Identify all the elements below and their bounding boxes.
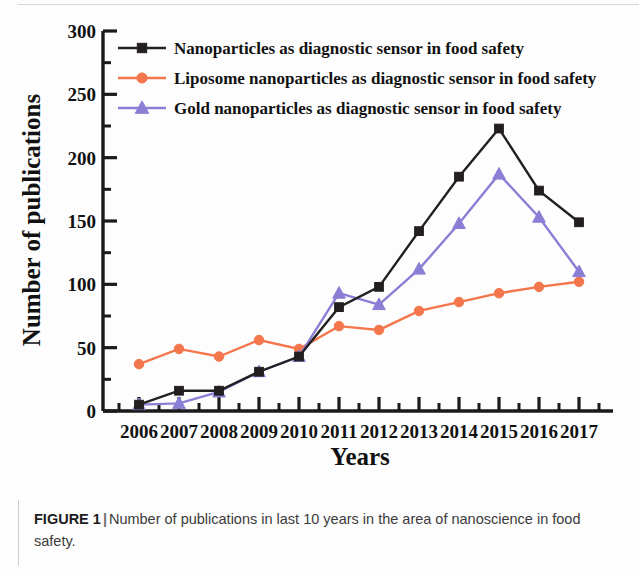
- caption-body: Number of publications in last 10 years …: [34, 511, 580, 549]
- legend-label: Nanoparticles as diagnostic sensor in fo…: [174, 39, 525, 58]
- legend-item-2: Liposome nanoparticles as diagnostic sen…: [118, 69, 597, 88]
- series-line: [139, 129, 579, 405]
- legend-label: Gold nanoparticles as diagnostic sensor …: [174, 99, 562, 118]
- x-tick-label: 2017: [560, 421, 599, 442]
- data-point-marker: [495, 124, 504, 133]
- series-line: [139, 282, 579, 364]
- y-tick-label: 200: [68, 148, 97, 169]
- y-axis-title: Number of publications: [18, 94, 45, 347]
- figure-caption: FIGURE 1|Number of publications in last …: [0, 498, 639, 570]
- caption-label: FIGURE 1: [34, 511, 101, 527]
- x-tick-label: 2008: [200, 421, 238, 442]
- data-point-marker: [295, 352, 304, 361]
- data-point-marker: [135, 400, 144, 409]
- x-tick-label: 2011: [321, 421, 358, 442]
- legend-item-3: Gold nanoparticles as diagnostic sensor …: [118, 99, 562, 118]
- y-tick-label: 0: [87, 401, 97, 422]
- publications-line-chart: Number of publications Years 05010015020…: [0, 0, 639, 480]
- legend-label: Liposome nanoparticles as diagnostic sen…: [174, 69, 597, 88]
- data-point-marker: [494, 288, 504, 298]
- x-tick-label: 2015: [480, 421, 518, 442]
- caption-separator: |: [101, 511, 109, 527]
- data-point-marker: [375, 282, 384, 291]
- legend-item-1: Nanoparticles as diagnostic sensor in fo…: [118, 39, 525, 58]
- data-point-marker: [374, 325, 384, 335]
- data-point-marker: [534, 282, 544, 292]
- data-point-marker: [455, 172, 464, 181]
- data-point-marker: [137, 43, 146, 52]
- data-point-marker: [414, 306, 424, 316]
- data-point-marker: [535, 186, 544, 195]
- data-point-marker: [575, 218, 584, 227]
- x-tick-label: 2010: [280, 421, 318, 442]
- caption-left-rule: [18, 500, 19, 566]
- series-1: [135, 124, 584, 409]
- x-tick-label: 2013: [400, 421, 438, 442]
- data-point-marker: [454, 297, 464, 307]
- x-axis-ticks: 2006200720082009201020112012201320142015…: [119, 397, 599, 442]
- x-tick-label: 2006: [120, 421, 158, 442]
- data-point-marker: [255, 367, 264, 376]
- data-point-marker: [335, 303, 344, 312]
- data-point-marker: [574, 277, 584, 287]
- data-point-marker: [134, 359, 144, 369]
- data-point-marker: [175, 386, 184, 395]
- x-tick-label: 2014: [440, 421, 479, 442]
- data-point-marker: [137, 73, 147, 83]
- x-tick-label: 2012: [360, 421, 398, 442]
- data-point-marker: [333, 287, 346, 299]
- x-tick-label: 2007: [160, 421, 199, 442]
- y-tick-label: 300: [68, 21, 97, 42]
- series-3: [133, 167, 586, 409]
- data-point-marker: [214, 352, 224, 362]
- data-point-marker: [174, 344, 184, 354]
- x-tick-label: 2016: [520, 421, 558, 442]
- data-point-marker: [215, 386, 224, 395]
- figure-container: Number of publications Years 05010015020…: [0, 0, 639, 570]
- y-tick-label: 150: [68, 211, 97, 232]
- y-axis-ticks: 050100150200250300: [68, 21, 118, 422]
- chart-legend: Nanoparticles as diagnostic sensor in fo…: [118, 39, 597, 118]
- y-tick-label: 50: [77, 338, 96, 359]
- x-tick-label: 2009: [240, 421, 278, 442]
- series-2: [134, 277, 584, 369]
- y-tick-label: 250: [68, 84, 97, 105]
- chart-plot-area: Number of publications Years 05010015020…: [0, 0, 639, 480]
- data-point-marker: [493, 167, 506, 179]
- series-line: [139, 174, 579, 405]
- data-point-marker: [334, 321, 344, 331]
- data-point-marker: [415, 227, 424, 236]
- data-point-marker: [254, 335, 264, 345]
- series-layer: [133, 124, 586, 409]
- x-axis-title: Years: [330, 443, 390, 470]
- y-tick-label: 100: [68, 274, 97, 295]
